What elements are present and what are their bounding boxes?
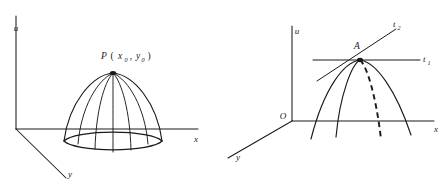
- apex-label-open-paren: (: [110, 51, 113, 62]
- apex-label-y-subscript: 0: [141, 56, 145, 63]
- tangent-label-t1: t: [423, 54, 426, 64]
- parabola-curve-middle: [336, 60, 360, 137]
- point-A-marker: [357, 58, 363, 62]
- origin-label-right: O: [280, 111, 287, 121]
- apex-point-marker: [110, 71, 116, 75]
- dome-surface-figure: u x y P ( x 0 , y 0 ): [0, 0, 224, 188]
- apex-label-P: P: [100, 51, 107, 61]
- x-axis-label-right: x: [433, 124, 438, 134]
- tangent-label-t2: t: [393, 19, 396, 29]
- figure-pair-container: u x y P ( x 0 , y 0 ): [0, 0, 448, 188]
- dome-meridian-2: [95, 73, 113, 149]
- apex-label-y: y: [135, 51, 141, 61]
- u-axis-label-right: u: [295, 26, 300, 36]
- dome-left-outline: [64, 73, 113, 141]
- u-axis-label-left: u: [14, 23, 19, 33]
- parabola-curve-right: [360, 60, 411, 135]
- apex-label-close-paren: ): [147, 51, 150, 62]
- dome-meridian-4: [113, 73, 131, 150]
- apex-label-comma: ,: [130, 51, 132, 61]
- tangent-line-t2: [317, 29, 396, 81]
- apex-label-x-subscript: 0: [124, 56, 128, 63]
- apex-point-label: P ( x 0 , y 0 ): [100, 51, 150, 63]
- y-axis-label-right: y: [235, 152, 240, 162]
- dome-right-outline: [113, 73, 162, 141]
- y-axis-left: [16, 129, 66, 178]
- tangent-label-t1-subscript: 1: [428, 59, 431, 66]
- x-axis-label-left: x: [193, 134, 198, 144]
- y-axis-label-left: y: [67, 169, 72, 179]
- apex-label-x: x: [117, 51, 123, 61]
- tangent-lines-figure: u x y O t 1 t 2 A: [224, 0, 448, 188]
- tangent-label-t1-group: t 1: [423, 54, 431, 66]
- point-A-label: A: [353, 41, 360, 51]
- parabola-curve-left: [311, 60, 360, 139]
- tangent-label-t2-subscript: 2: [398, 24, 401, 31]
- tangent-label-t2-group: t 2: [393, 19, 401, 31]
